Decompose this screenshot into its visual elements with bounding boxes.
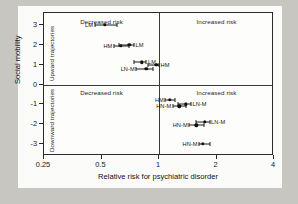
x-axis-tick-label: 0.5 bbox=[95, 160, 105, 169]
figure-canvas: LMLMHMLMHMLN-MHMLN-MHN-MLN-MHN-MHN-M Dec… bbox=[0, 0, 298, 204]
error-bar-cap-high bbox=[174, 98, 175, 102]
error-bar-cap-high bbox=[185, 104, 186, 108]
y-axis-tick bbox=[39, 24, 43, 25]
data-point-label: HM bbox=[103, 43, 112, 49]
error-bar-cap-low bbox=[172, 104, 173, 108]
data-point-label: HM bbox=[155, 97, 164, 103]
y-axis-tick-label: 1 bbox=[33, 59, 37, 68]
y-axis-tick-label: -3 bbox=[30, 139, 37, 148]
error-bar-cap-low bbox=[199, 142, 200, 146]
data-point-label: LN-M bbox=[211, 119, 225, 125]
plot-area: LMLMHMLMHMLN-MHMLN-MHN-MLN-MHN-MHN-M Dec… bbox=[43, 12, 273, 155]
x-axis-tick bbox=[43, 155, 44, 159]
y-axis-tick-label: 0 bbox=[33, 79, 37, 88]
data-point-label: HN-M bbox=[173, 122, 188, 128]
reference-line-x1 bbox=[159, 13, 160, 154]
y-axis-title: Social mobility bbox=[13, 35, 22, 84]
data-point-label: HN-M bbox=[156, 103, 171, 109]
error-bar-cap-low bbox=[148, 63, 149, 67]
error-bar-cap-high bbox=[209, 120, 210, 124]
data-point-label: LN-M bbox=[121, 66, 135, 72]
error-bar-cap-high bbox=[152, 67, 153, 71]
data-point-label: HM bbox=[161, 62, 170, 68]
data-point-label: LM bbox=[136, 42, 144, 48]
y-axis-tick-label: 2 bbox=[33, 39, 37, 48]
error-bar-cap-low bbox=[134, 60, 135, 64]
region-label-upward: Upward trajectories bbox=[48, 25, 55, 80]
x-axis-tick bbox=[216, 155, 217, 159]
data-point-marker bbox=[140, 61, 143, 64]
data-point-label: HN-M bbox=[183, 141, 198, 147]
y-axis-tick bbox=[39, 103, 43, 104]
x-axis-tick bbox=[158, 155, 159, 159]
quadrant-label-bottom-left: Decreased risk bbox=[80, 89, 123, 96]
y-axis-tick-label: 3 bbox=[33, 19, 37, 28]
error-bar-cap-high bbox=[210, 142, 211, 146]
y-axis-tick-label: -2 bbox=[30, 119, 37, 128]
quadrant-label-bottom-right: Increased risk bbox=[197, 89, 237, 96]
error-bar-cap-high bbox=[159, 63, 160, 67]
error-bar-cap-high bbox=[146, 60, 147, 64]
x-axis-tick-label: 0.25 bbox=[36, 160, 50, 169]
data-point-marker bbox=[145, 67, 148, 70]
error-bar-cap-high bbox=[203, 123, 204, 127]
y-axis-tick bbox=[39, 143, 43, 144]
quadrant-label-top-left: Decreased risk bbox=[80, 18, 123, 25]
y-axis-tick-label: -1 bbox=[30, 99, 37, 108]
region-label-downward: Downward trajectories bbox=[48, 89, 55, 152]
error-bar-cap-low bbox=[165, 98, 166, 102]
x-axis-tick bbox=[273, 155, 274, 159]
y-axis-tick bbox=[39, 84, 43, 85]
x-axis-title: Relative risk for psychiatric disorder bbox=[98, 172, 218, 181]
error-bar-cap-high bbox=[190, 102, 191, 106]
error-bar-cap-high bbox=[134, 43, 135, 47]
data-point-label: LN-M bbox=[192, 101, 206, 107]
error-bar-cap-high bbox=[129, 44, 130, 48]
x-axis-tick-label: 4 bbox=[271, 160, 275, 169]
y-axis-tick bbox=[39, 123, 43, 124]
y-axis-tick bbox=[39, 64, 43, 65]
x-axis-tick-label: 1 bbox=[156, 160, 160, 169]
data-point-marker bbox=[178, 105, 181, 108]
quadrant-label-top-right: Increased risk bbox=[197, 18, 237, 25]
data-point-marker bbox=[119, 44, 122, 47]
reference-line-y0 bbox=[44, 85, 272, 86]
x-axis-tick bbox=[101, 155, 102, 159]
data-point-marker bbox=[168, 98, 171, 101]
y-axis-tick bbox=[39, 44, 43, 45]
error-bar-cap-low bbox=[113, 44, 114, 48]
data-point-marker bbox=[195, 124, 198, 127]
error-bar-cap-low bbox=[189, 123, 190, 127]
data-point-marker bbox=[201, 142, 204, 145]
x-axis-tick-label: 2 bbox=[213, 160, 217, 169]
error-bar-cap-low bbox=[136, 67, 137, 71]
